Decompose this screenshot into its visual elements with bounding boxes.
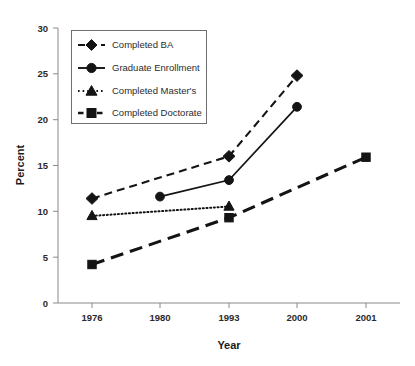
data-point-marker-triangle bbox=[224, 201, 234, 210]
legend-label-completed-ba: Completed BA bbox=[112, 39, 174, 50]
data-point-marker-diamond bbox=[86, 193, 98, 205]
line-chart: 30 25 20 15 10 5 0 1976 1980 1993 2000 2… bbox=[0, 0, 415, 366]
legend-label-completed-doctorate: Completed Doctorate bbox=[112, 107, 202, 118]
data-point-marker-square bbox=[88, 260, 96, 268]
y-tick-label-15: 15 bbox=[37, 160, 48, 171]
series-line-completed-doctorate bbox=[92, 157, 366, 264]
y-axis-ticks bbox=[53, 28, 58, 303]
y-tick-label-20: 20 bbox=[37, 114, 48, 125]
legend-label-graduate-enrollment: Graduate Enrollment bbox=[112, 62, 200, 73]
legend[interactable]: Completed BA Graduate Enrollment Complet… bbox=[72, 31, 207, 124]
chart-container: 30 25 20 15 10 5 0 1976 1980 1993 2000 2… bbox=[0, 0, 415, 366]
y-tick-label-10: 10 bbox=[37, 206, 48, 217]
y-tick-label-30: 30 bbox=[37, 23, 48, 34]
data-point-marker-square bbox=[362, 153, 370, 161]
x-axis-tick-labels: 1976 1980 1993 2000 2001 bbox=[81, 312, 377, 323]
y-axis-title: Percent bbox=[14, 144, 26, 185]
series-completed-doctorate bbox=[88, 153, 370, 269]
data-point-marker-diamond bbox=[291, 70, 303, 82]
data-point-marker-circle bbox=[156, 192, 165, 201]
x-tick-label-2001: 2001 bbox=[355, 312, 377, 323]
series-line-completed-masters bbox=[92, 207, 229, 216]
y-axis-tick-labels: 30 25 20 15 10 5 0 bbox=[37, 23, 48, 309]
x-tick-label-2000: 2000 bbox=[286, 312, 307, 323]
x-tick-label-1993: 1993 bbox=[218, 312, 239, 323]
circle-icon bbox=[87, 63, 96, 72]
square-icon bbox=[87, 109, 96, 118]
y-tick-label-5: 5 bbox=[43, 252, 49, 263]
series-completed-masters bbox=[87, 201, 234, 220]
legend-item-completed-ba[interactable]: Completed BA bbox=[78, 39, 174, 50]
x-axis-title: Year bbox=[217, 339, 241, 351]
y-tick-label-25: 25 bbox=[37, 68, 48, 79]
legend-label-completed-masters: Completed Master's bbox=[112, 85, 196, 96]
x-tick-label-1976: 1976 bbox=[81, 312, 102, 323]
data-point-marker-circle bbox=[293, 102, 302, 111]
data-point-marker-circle bbox=[225, 176, 234, 185]
x-tick-label-1980: 1980 bbox=[149, 312, 170, 323]
y-tick-label-0: 0 bbox=[43, 298, 48, 309]
x-axis-ticks bbox=[92, 303, 366, 308]
data-point-marker-square bbox=[225, 214, 233, 222]
